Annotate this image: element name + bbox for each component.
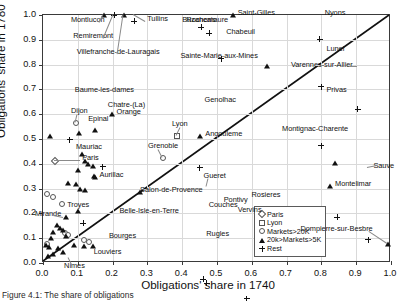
point-label: Genolhac — [205, 96, 236, 103]
y-tick-label: 1.0 — [10, 9, 36, 19]
y-tick-label: 0.1 — [10, 232, 36, 242]
data-point-triangle — [327, 183, 333, 188]
x-tick-mark — [321, 261, 322, 265]
y-tick-mark — [39, 189, 43, 190]
point-label: Louviers — [94, 248, 122, 255]
data-point-plus — [318, 143, 324, 149]
point-label: Lunel — [326, 45, 344, 52]
point-label: Epinal — [88, 115, 108, 122]
x-tick-label: 0.3 — [133, 268, 159, 278]
point-label: Varennes-sur-Allier — [291, 61, 353, 68]
label-leader-line — [54, 160, 80, 161]
triangle-marker-icon — [258, 238, 266, 243]
y-tick-label: 0.5 — [10, 133, 36, 143]
data-point-triangle — [91, 173, 97, 178]
point-label: Bourges — [109, 232, 136, 239]
point-label: Montelimar — [335, 180, 371, 187]
x-tick-mark — [391, 261, 392, 265]
point-label: Rochemaure — [186, 16, 228, 23]
data-point-circle — [44, 191, 50, 197]
point-label: Privas — [326, 86, 346, 93]
y-tick-mark — [39, 139, 43, 140]
point-label: Troyes — [67, 201, 89, 208]
point-label: Chatre-(La) — [108, 101, 145, 108]
data-point-triangle — [109, 112, 115, 117]
circle-marker-icon — [258, 228, 266, 234]
data-point-triangle — [60, 228, 66, 233]
y-tick-label: 0.0 — [10, 257, 36, 267]
y-tick-label: 0.3 — [10, 183, 36, 193]
legend-item-label: Paris — [267, 211, 283, 218]
data-point-circle — [50, 194, 56, 200]
gridline-horizontal — [43, 139, 389, 140]
point-label: Lyon — [172, 120, 188, 127]
data-point-triangle — [47, 133, 53, 138]
point-label: Aurillac — [100, 171, 124, 178]
data-point-plus — [206, 30, 212, 36]
data-point-triangle — [332, 160, 338, 165]
point-label: Nyons — [325, 9, 346, 16]
label-leader-line — [349, 66, 357, 67]
data-point-triangle — [259, 238, 265, 243]
x-tick-label: 0.9 — [342, 268, 368, 278]
point-label: Tullins — [147, 15, 168, 22]
y-tick-mark — [39, 263, 43, 264]
x-tick-label: 0.5 — [203, 268, 229, 278]
data-point-plus — [198, 24, 204, 30]
point-label: Vervins — [238, 206, 262, 213]
data-point-plus — [197, 165, 203, 171]
data-point-triangle — [92, 127, 98, 132]
y-axis-title: Obligations' share in 1780 — [0, 4, 7, 138]
y-tick-mark — [39, 238, 43, 239]
x-tick-mark — [217, 261, 218, 265]
data-point-plus — [355, 106, 361, 112]
point-label: Dompierre-sur-Besbre — [301, 225, 373, 232]
y-tick-mark — [39, 40, 43, 41]
x-tick-mark — [252, 261, 253, 265]
data-point-triangle — [81, 244, 87, 249]
gridline-horizontal — [43, 238, 389, 239]
data-point-plus — [318, 84, 324, 90]
y-tick-mark — [39, 89, 43, 90]
data-point-plus — [204, 280, 210, 286]
y-tick-mark — [39, 65, 43, 66]
data-point-plus — [131, 18, 137, 24]
point-label: Rosieres — [252, 191, 281, 198]
y-tick-label: 0.2 — [10, 207, 36, 217]
point-label: Mauriac — [76, 143, 102, 150]
point-label: Grenoble — [148, 142, 178, 149]
data-point-triangle — [63, 214, 69, 219]
data-point-triangle — [75, 168, 81, 173]
data-point-triangle — [71, 242, 77, 247]
data-point-triangle — [48, 236, 54, 241]
data-point-triangle — [230, 13, 236, 18]
x-tick-label: 0.8 — [307, 268, 333, 278]
point-label: Rugles — [206, 230, 229, 237]
data-point-triangle — [76, 131, 82, 136]
point-label: Dijon — [71, 107, 88, 114]
point-label: Angouleme — [205, 130, 242, 137]
y-tick-mark — [39, 15, 43, 16]
square-marker-icon — [258, 220, 266, 226]
point-label: Paris — [82, 154, 99, 161]
scatter-chart-figure: Obligations' share in 1780 Obligations' … — [0, 0, 416, 301]
data-point-plus — [244, 296, 250, 301]
y-tick-mark — [39, 164, 43, 165]
y-tick-label: 0.9 — [10, 34, 36, 44]
point-label: Sainte-Marie-aux-Mines — [180, 52, 257, 59]
data-point-plus — [365, 237, 371, 243]
figure-caption: Figure 4.1: The share of obligations — [2, 290, 134, 300]
y-tick-label: 0.8 — [10, 59, 36, 69]
data-point-plus — [317, 36, 323, 42]
x-tick-mark — [147, 261, 148, 265]
legend-item-label: Rest — [267, 245, 282, 252]
x-tick-mark — [43, 261, 44, 265]
data-point-plus — [67, 137, 73, 143]
x-tick-label: 0.2 — [99, 268, 125, 278]
point-label: Orange — [117, 108, 141, 115]
point-label: Remiremont — [73, 32, 113, 39]
x-tick-mark — [356, 261, 357, 265]
y-tick-label: 0.6 — [10, 108, 36, 118]
legend-item-4[interactable]: Rest — [258, 244, 321, 253]
point-label: Montignac-Charente — [282, 125, 348, 132]
